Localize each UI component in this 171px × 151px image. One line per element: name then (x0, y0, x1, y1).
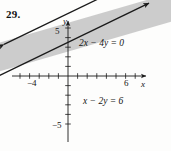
math-figure: 29. (0, 0, 171, 151)
equation-label-lower-text: x − 2y = 6 (83, 96, 123, 106)
equation-label-upper: 2x − 4y = 0 (79, 38, 124, 48)
coordinate-plot (0, 0, 171, 151)
y-axis-name: y (63, 16, 67, 26)
equation-label-lower: x − 2y = 6 (83, 96, 123, 106)
y-tick-label-5: 5 (55, 26, 60, 36)
equation-label-upper-text: 2x − 4y = 0 (79, 38, 124, 48)
x-tick-label-6: 6 (124, 78, 129, 88)
x-tick-label-neg4: −4 (27, 78, 37, 88)
y-tick-label-neg5: −5 (52, 120, 62, 130)
shaded-region (0, 0, 171, 71)
x-axis-name: x (141, 79, 145, 89)
